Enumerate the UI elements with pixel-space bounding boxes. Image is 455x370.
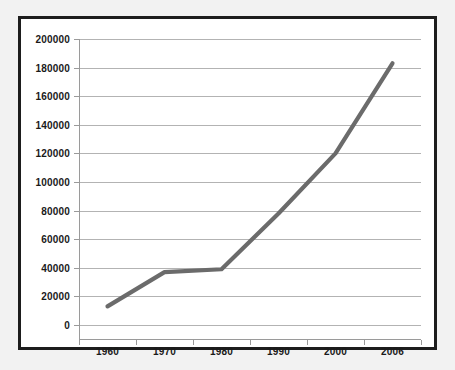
x-axis-tick-labels: 196019701980199020002006 — [21, 340, 434, 348]
x-axis-tick-label: 2006 — [381, 346, 404, 357]
x-axis-tick-label: 1960 — [96, 346, 119, 357]
chart-plot-svg — [21, 19, 434, 347]
data-series-group — [108, 63, 393, 306]
data-series-line — [108, 63, 393, 306]
gridlines-group — [79, 40, 421, 326]
x-tick-marks-group — [74, 40, 422, 345]
x-axis-tick-label: 1980 — [210, 346, 233, 357]
x-axis-tick-label: 1990 — [267, 346, 290, 357]
chart-page: 0200004000060000800001000001200001400001… — [0, 0, 455, 370]
x-axis-tick-label: 1970 — [153, 346, 176, 357]
chart-figure-frame: 0200004000060000800001000001200001400001… — [18, 16, 437, 350]
x-axis-tick-label: 2000 — [324, 346, 347, 357]
chart-plot-container: 0200004000060000800001000001200001400001… — [21, 19, 434, 347]
